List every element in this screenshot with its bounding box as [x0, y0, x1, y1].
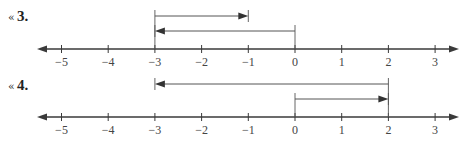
problem-number: 4. — [17, 77, 29, 93]
tick-label: −4 — [102, 123, 115, 137]
arrowhead-icon — [238, 13, 248, 20]
arrowhead-icon — [155, 28, 165, 35]
tick-label: 2 — [385, 55, 391, 69]
tick-label: 2 — [385, 123, 391, 137]
tick-label: −2 — [195, 55, 208, 69]
tick-label: 0 — [292, 55, 298, 69]
tick-label: −3 — [149, 55, 162, 69]
tick-label: −5 — [55, 123, 68, 137]
arrowhead-icon — [155, 81, 165, 88]
tick-label: 3 — [432, 55, 438, 69]
axis-right-arrowhead — [449, 46, 459, 53]
number-line: −5−4−3−2−10123 — [37, 45, 459, 69]
vector-arrow — [155, 10, 248, 49]
vector-arrow — [155, 78, 389, 117]
axis-left-arrowhead — [37, 114, 47, 121]
number-line: −5−4−3−2−10123 — [37, 113, 459, 137]
axis-left-arrowhead — [37, 46, 47, 53]
problem-number: 3. — [17, 8, 29, 24]
problem-marker: « — [8, 80, 15, 93]
tick-label: −1 — [242, 123, 255, 137]
tick-label: 0 — [292, 123, 298, 137]
tick-label: −1 — [242, 55, 255, 69]
tick-label: −3 — [149, 123, 162, 137]
problem-4: « 4. −5−4−3−2−10123 — [8, 77, 459, 137]
tick-label: 1 — [339, 123, 345, 137]
tick-label: −5 — [55, 55, 68, 69]
tick-label: −4 — [102, 55, 115, 69]
tick-label: 1 — [339, 55, 345, 69]
tick-label: −2 — [195, 123, 208, 137]
axis-right-arrowhead — [449, 114, 459, 121]
vector-arrow — [155, 25, 295, 49]
tick-label: 3 — [432, 123, 438, 137]
arrowhead-icon — [378, 96, 388, 103]
number-line-diagram: « 3. −5−4−3−2−10123 « 4. −5−4−3−2−10123 — [0, 0, 467, 145]
problem-marker: « — [8, 11, 15, 24]
problem-3: « 3. −5−4−3−2−10123 — [8, 8, 459, 69]
